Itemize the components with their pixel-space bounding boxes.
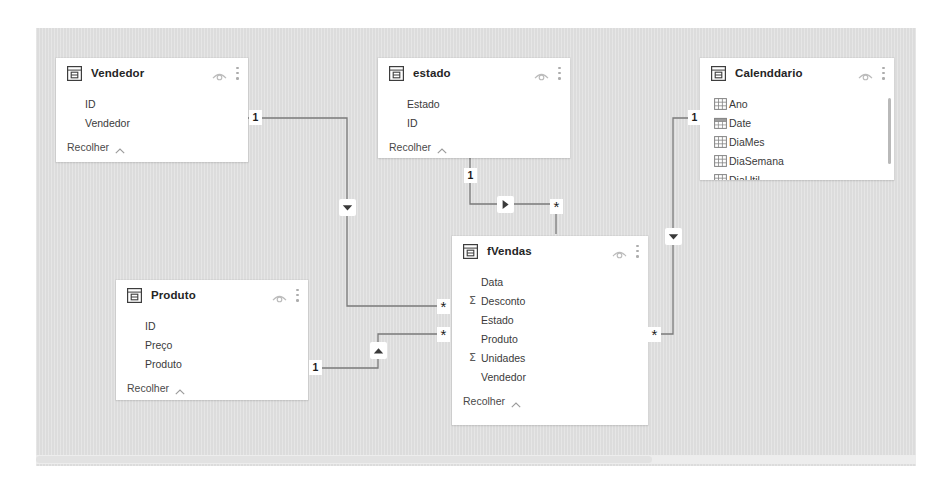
field-row[interactable]: Σ Desconto xyxy=(452,291,648,310)
sigma-glyph: Σ xyxy=(469,352,476,363)
field-row[interactable]: Produto xyxy=(452,329,648,348)
table-vertical-scrollbar[interactable] xyxy=(888,98,891,164)
field-row[interactable]: Date xyxy=(700,113,894,132)
cardinality-marker-many-estado[interactable]: * xyxy=(550,199,563,214)
kebab-menu-icon[interactable] xyxy=(636,245,639,258)
sum-icon: Σ xyxy=(464,295,481,306)
field-label: DiaMes xyxy=(729,136,765,148)
table-icon xyxy=(389,66,404,81)
table-icon xyxy=(127,288,142,303)
scrollbar-thumb[interactable] xyxy=(36,456,652,463)
canvas-horizontal-scrollbar[interactable] xyxy=(36,455,916,464)
chevron-down-filter-icon[interactable] xyxy=(665,228,682,245)
field-row[interactable]: Estado xyxy=(452,310,648,329)
field-row[interactable]: Data xyxy=(452,272,648,291)
eye-icon[interactable] xyxy=(272,290,287,301)
cardinality-marker-one-estado[interactable]: 1 xyxy=(464,168,477,183)
collapse-button[interactable]: Recolher xyxy=(378,136,570,158)
field-row[interactable]: Vendedor xyxy=(452,367,648,386)
table-header-actions xyxy=(534,67,561,80)
table-title: Calenddario xyxy=(735,67,803,79)
collapse-label: Recolher xyxy=(127,382,169,394)
table-title: estado xyxy=(413,67,451,79)
cardinality-marker-many-produto[interactable]: * xyxy=(437,327,450,342)
kebab-menu-icon[interactable] xyxy=(558,67,561,80)
field-list-produto: ID Preço Produto xyxy=(116,310,308,375)
table-title: Vendedor xyxy=(91,67,144,79)
field-row[interactable]: ID xyxy=(56,94,248,113)
table-card-vendedor[interactable]: Vendedor ID Vendedor Re xyxy=(56,58,248,162)
field-label: Produto xyxy=(145,358,182,370)
field-label: DiaSemana xyxy=(729,155,784,167)
collapse-button[interactable]: Recolher xyxy=(56,136,248,158)
cardinality-marker-one-vendedor[interactable]: 1 xyxy=(249,110,262,125)
table-header-fvendas[interactable]: fVendas xyxy=(452,236,648,266)
kebab-menu-icon[interactable] xyxy=(236,67,239,80)
field-row[interactable]: Vendedor xyxy=(56,113,248,132)
table-header-vendedor[interactable]: Vendedor xyxy=(56,58,248,88)
collapse-label: Recolher xyxy=(463,395,505,407)
field-label: Desconto xyxy=(481,295,525,307)
eye-icon[interactable] xyxy=(612,246,627,257)
kebab-menu-icon[interactable] xyxy=(296,289,299,302)
chevron-down-filter-icon[interactable] xyxy=(339,199,356,216)
table-card-fvendas[interactable]: fVendas Data Σ Desconto xyxy=(452,236,648,425)
cardinality-marker-many-vendedor[interactable]: * xyxy=(437,299,450,314)
table-card-produto[interactable]: Produto ID Preço xyxy=(116,280,308,400)
field-label: DiaUtil xyxy=(729,174,760,181)
table-card-calenddario[interactable]: Calenddario xyxy=(700,58,894,180)
field-row[interactable]: ID xyxy=(116,316,308,335)
cardinality-marker-one-calenddario[interactable]: 1 xyxy=(688,110,701,125)
kebab-menu-icon[interactable] xyxy=(882,67,885,80)
table-header-actions xyxy=(612,245,639,258)
field-label: Unidades xyxy=(481,352,525,364)
table-title: fVendas xyxy=(487,245,532,257)
table-header-produto[interactable]: Produto xyxy=(116,280,308,310)
field-label: Estado xyxy=(481,314,514,326)
table-card-estado[interactable]: estado Estado ID Recolh xyxy=(378,58,570,158)
field-label: Data xyxy=(481,276,503,288)
chevron-up-icon xyxy=(115,144,125,150)
cardinality-marker-one-produto[interactable]: 1 xyxy=(309,360,322,375)
collapse-button[interactable]: Recolher xyxy=(452,390,648,412)
field-row[interactable]: DiaMes xyxy=(700,132,894,151)
chevron-up-icon xyxy=(175,385,185,391)
field-row[interactable]: Ano xyxy=(700,94,894,113)
field-row[interactable]: DiaSemana xyxy=(700,151,894,170)
field-label: Preço xyxy=(145,339,172,351)
eye-icon[interactable] xyxy=(858,68,873,79)
table-header-calenddario[interactable]: Calenddario xyxy=(700,58,894,88)
grid-table-icon xyxy=(712,136,729,148)
field-label: Produto xyxy=(481,333,518,345)
table-icon xyxy=(463,244,478,259)
collapse-label: Recolher xyxy=(389,141,431,153)
field-list-fvendas: Data Σ Desconto Estado Produto Σ Unida xyxy=(452,266,648,388)
field-row[interactable]: Produto xyxy=(116,354,308,373)
calendar-icon xyxy=(712,117,729,129)
chevron-up-filter-icon[interactable] xyxy=(370,342,387,359)
field-list-estado: Estado ID xyxy=(378,88,570,134)
field-row[interactable]: Estado xyxy=(378,94,570,113)
grid-table-icon xyxy=(712,155,729,167)
sum-icon: Σ xyxy=(464,352,481,363)
field-label: Vendedor xyxy=(85,117,130,129)
field-row[interactable]: Preço xyxy=(116,335,308,354)
grid-table-icon xyxy=(712,174,729,181)
field-row[interactable]: DiaUtil xyxy=(700,170,894,180)
table-header-actions xyxy=(858,67,885,80)
play-right-filter-icon[interactable] xyxy=(497,196,514,213)
field-label: Estado xyxy=(407,98,440,110)
table-header-actions xyxy=(212,67,239,80)
chevron-up-icon xyxy=(437,144,447,150)
collapse-button[interactable]: Recolher xyxy=(116,377,308,399)
field-label: ID xyxy=(145,320,156,332)
eye-icon[interactable] xyxy=(212,68,227,79)
field-row[interactable]: Σ Unidades xyxy=(452,348,648,367)
field-row[interactable]: ID xyxy=(378,113,570,132)
eye-icon[interactable] xyxy=(534,68,549,79)
table-header-estado[interactable]: estado xyxy=(378,58,570,88)
field-list-calenddario: Ano Date xyxy=(700,88,894,180)
field-list-vendedor: ID Vendedor xyxy=(56,88,248,134)
cardinality-marker-many-calenddario[interactable]: * xyxy=(648,327,661,342)
field-label: Ano xyxy=(729,98,748,110)
